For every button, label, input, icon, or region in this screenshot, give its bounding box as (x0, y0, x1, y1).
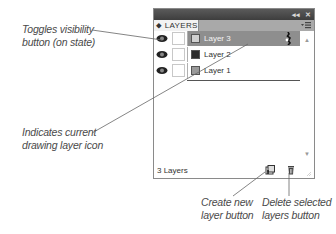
layer-cell[interactable]: Layer 1 (187, 63, 300, 78)
new-layer-icon[interactable] (265, 165, 275, 175)
vertical-scrollbar[interactable]: ▲ ▼ (301, 31, 313, 162)
collapse-button[interactable]: ◂◂ (292, 9, 300, 20)
callout-current-layer: Indicates current drawing layer icon (22, 126, 103, 152)
close-button[interactable]: ✕ (305, 9, 311, 20)
insertion-line (187, 80, 300, 81)
eye-icon[interactable] (156, 66, 168, 75)
layer-name: Layer 1 (204, 63, 231, 78)
layer-name: Layer 2 (204, 47, 231, 62)
layer-color-swatch (191, 50, 200, 59)
panel-titlebar[interactable]: ◂◂ ✕ (154, 9, 314, 20)
layer-row-2[interactable]: Layer 2 (154, 47, 300, 62)
callout-line: button (on state) (22, 36, 95, 49)
tab-layers[interactable]: ⬥ LAYERS (154, 20, 199, 31)
layer-cell[interactable]: Layer 2 (187, 47, 300, 62)
lock-toggle[interactable] (172, 48, 185, 61)
panel-menu-icon[interactable] (301, 21, 311, 29)
pen-drawing-layer-icon (284, 32, 292, 45)
layer-row-3[interactable]: Layer 3 (154, 31, 300, 46)
layers-panel: ◂◂ ✕ ⬥ LAYERS Layer 3 (153, 8, 315, 179)
eye-icon[interactable] (156, 50, 168, 59)
layer-cell[interactable]: Layer 3 (187, 31, 300, 46)
lock-toggle[interactable] (172, 64, 185, 77)
callout-create-layer: Create new layer button (201, 196, 253, 222)
layer-color-swatch (191, 34, 200, 43)
lock-toggle[interactable] (172, 32, 185, 45)
trash-icon[interactable] (286, 165, 296, 175)
callout-delete-layers: Delete selected layers button (262, 196, 331, 222)
resize-grip-icon[interactable] (306, 171, 312, 177)
panel-footer: 3 Layers (154, 162, 314, 179)
layer-name: Layer 3 (204, 31, 231, 46)
callout-line: Create new (201, 196, 253, 209)
callout-line: layer button (201, 209, 253, 222)
callout-line: layers button (262, 209, 331, 222)
panel-tab-row: ⬥ LAYERS (154, 20, 314, 31)
callout-line: Toggles visibility (22, 23, 95, 36)
eye-icon[interactable] (156, 34, 168, 43)
callout-line: Indicates current (22, 126, 103, 139)
layer-row-1[interactable]: Layer 1 (154, 63, 300, 78)
callout-line: drawing layer icon (22, 139, 103, 152)
scroll-down-arrow[interactable]: ▼ (304, 151, 310, 157)
callout-toggle-visibility: Toggles visibility button (on state) (22, 23, 95, 49)
layer-color-swatch (191, 66, 200, 75)
callout-line: Delete selected (262, 196, 331, 209)
layer-count: 3 Layers (157, 165, 188, 176)
scroll-up-arrow[interactable]: ▲ (304, 37, 310, 43)
layers-list: Layer 3 Layer 2 (154, 31, 314, 162)
